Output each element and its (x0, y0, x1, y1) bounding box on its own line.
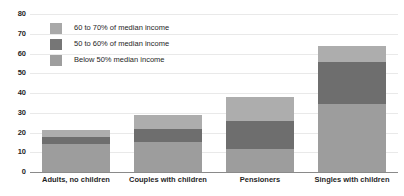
y-axis-tick-label: 80 (0, 10, 26, 18)
y-axis-tick-label: 30 (0, 109, 26, 117)
legend-item: 50 to 60% of median income (50, 36, 250, 52)
bar-segment (42, 137, 110, 144)
legend-item: 60 to 70% of median income (50, 20, 250, 36)
legend-label: 50 to 60% of median income (74, 40, 169, 48)
bar-segment (134, 142, 202, 172)
bar-segment (42, 144, 110, 172)
bar-stack (134, 115, 202, 172)
y-axis-tick-label: 20 (0, 129, 26, 137)
legend-swatch-icon (50, 23, 62, 34)
bar-stack (318, 46, 386, 172)
legend-swatch-icon (50, 39, 62, 50)
bar-segment (318, 46, 386, 63)
axis-line (30, 172, 398, 173)
y-axis-tick-label: 0 (0, 168, 26, 176)
y-axis-tick-label: 50 (0, 70, 26, 78)
bar-stack (226, 97, 294, 172)
bar-segment (226, 121, 294, 150)
legend-swatch-icon (50, 55, 62, 66)
bar-segment (42, 130, 110, 138)
legend-label: 60 to 70% of median income (74, 24, 169, 32)
bar-segment (226, 97, 294, 121)
y-axis-tick-label: 10 (0, 149, 26, 157)
legend-item: Below 50% median income (50, 52, 250, 68)
x-axis-tick-label: Adults, no children (30, 176, 122, 184)
legend-label: Below 50% median income (74, 56, 164, 64)
x-axis-tick-label: Singles with children (306, 176, 398, 184)
bar-segment (134, 129, 202, 143)
y-axis-tick-label: 70 (0, 30, 26, 38)
bar-segment (226, 149, 294, 172)
bar-segment (318, 62, 386, 103)
x-axis-tick-label: Couples with children (122, 176, 214, 184)
y-axis: 01020304050607080 (0, 0, 26, 158)
bar-group (318, 14, 386, 172)
bar-segment (318, 104, 386, 172)
chart-legend: 60 to 70% of median income 50 to 60% of … (50, 20, 250, 68)
bar-stack (42, 130, 110, 172)
y-axis-tick-label: 60 (0, 50, 26, 58)
x-axis-tick-label: Pensioners (214, 176, 306, 184)
y-axis-tick-label: 40 (0, 89, 26, 97)
bar-segment (134, 115, 202, 129)
stacked-bar-chart: 01020304050607080 Adults, no childrenCou… (0, 0, 404, 196)
